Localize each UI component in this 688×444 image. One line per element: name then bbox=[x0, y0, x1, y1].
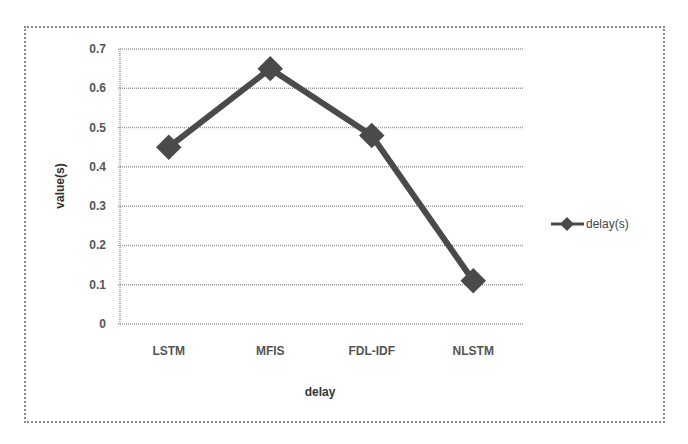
y-tick-label: 0.6 bbox=[89, 81, 106, 95]
y-axis-ticks: 00.10.20.30.40.50.60.7 bbox=[89, 42, 106, 331]
legend-diamond-icon bbox=[560, 217, 574, 231]
x-axis-title: delay bbox=[305, 385, 336, 399]
y-tick-label: 0.2 bbox=[89, 238, 106, 252]
y-tick-label: 0.1 bbox=[89, 278, 106, 292]
y-tick-label: 0.3 bbox=[89, 199, 106, 213]
x-category-label: FDL-IDF bbox=[348, 344, 395, 358]
line-chart: 00.10.20.30.40.50.60.7 LSTMMFISFDL-IDFNL… bbox=[0, 0, 688, 444]
legend-label: delay(s) bbox=[586, 217, 629, 231]
data-series bbox=[156, 56, 486, 294]
x-category-label: MFIS bbox=[256, 344, 285, 358]
x-axis-categories: LSTMMFISFDL-IDFNLSTM bbox=[152, 344, 494, 358]
series-line bbox=[169, 69, 474, 281]
y-tick-label: 0.5 bbox=[89, 121, 106, 135]
x-category-label: LSTM bbox=[152, 344, 185, 358]
y-tick-label: 0.4 bbox=[89, 160, 106, 174]
x-category-label: NLSTM bbox=[453, 344, 494, 358]
y-tick-label: 0.7 bbox=[89, 42, 106, 56]
y-tick-label: 0 bbox=[99, 317, 106, 331]
y-axis-title: value(s) bbox=[53, 163, 67, 208]
legend: delay(s) bbox=[551, 217, 629, 231]
